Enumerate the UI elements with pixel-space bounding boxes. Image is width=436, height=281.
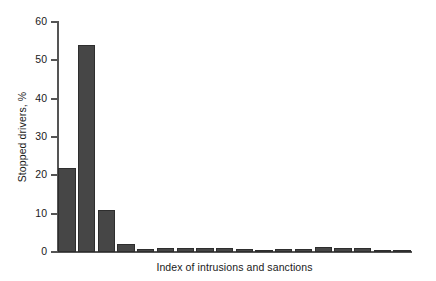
bar: [117, 244, 134, 252]
bar: [236, 249, 253, 252]
bar: [275, 249, 292, 252]
y-axis-tick-label-20: 20: [13, 169, 47, 180]
bar: [315, 247, 332, 252]
bar: [374, 250, 391, 252]
bar: [334, 248, 351, 252]
bar: [295, 249, 312, 252]
y-axis-tick-label-10: 10: [13, 208, 47, 219]
bar: [393, 250, 410, 252]
y-axis-tick-label-30: 30: [13, 131, 47, 142]
bar: [58, 168, 75, 252]
bar: [196, 248, 213, 252]
bar: [98, 210, 115, 252]
bar: [157, 248, 174, 252]
bar: [137, 249, 154, 252]
bar: [177, 248, 194, 252]
x-axis-label: Index of intrusions and sanctions: [57, 261, 412, 273]
y-axis-tick-label-0: 0: [13, 246, 47, 257]
y-axis-tick-label-40: 40: [13, 93, 47, 104]
bar: [255, 250, 272, 252]
bar-chart-figure: Stopped drivers, % 0102030405060 Index o…: [0, 0, 436, 281]
bar: [216, 248, 233, 252]
bar: [354, 248, 371, 252]
bars-container: [57, 22, 412, 252]
y-axis-tick-label-50: 50: [13, 54, 47, 65]
bar: [78, 45, 95, 252]
y-axis-tick-label-60: 60: [13, 16, 47, 27]
